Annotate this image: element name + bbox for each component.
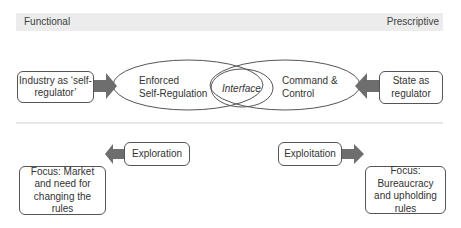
command-control-label: Command & Control	[282, 74, 338, 100]
exploitation-box: Exploitation	[278, 142, 342, 166]
arrow-left-icon	[355, 73, 379, 99]
exploration-box: Exploration	[124, 142, 190, 166]
ellipse-line: Self-Regulation	[139, 87, 207, 100]
bureaucracy-focus-box: Focus: Bureaucracy and upholding rules	[365, 166, 446, 214]
interface-label: Interface	[222, 82, 261, 95]
market-focus-box: Focus: Market and need for changing the …	[19, 166, 106, 215]
ellipse-line: Enforced	[139, 74, 207, 87]
enforced-self-regulation-label: Enforced Self-Regulation	[139, 74, 207, 100]
arrow-right-icon	[342, 144, 364, 164]
ellipse-line: Command &	[282, 74, 338, 87]
industry-self-regulator-box: Industry as ‘self-regulator’	[17, 71, 94, 103]
arrow-left-icon	[105, 144, 124, 164]
arrow-right-icon	[93, 73, 117, 99]
state-regulator-box: State as regulator	[379, 71, 443, 104]
ellipse-line: Control	[282, 87, 338, 100]
